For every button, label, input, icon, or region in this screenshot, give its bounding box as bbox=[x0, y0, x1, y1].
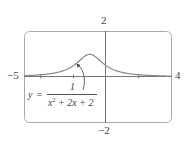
denominator-rest: + 2x + 2 bbox=[55, 97, 93, 108]
equation-equals: = bbox=[36, 89, 43, 100]
annotation-arrow bbox=[78, 65, 84, 90]
fraction-bar bbox=[47, 94, 97, 95]
y-max-label: 2 bbox=[101, 15, 107, 26]
graph-canvas bbox=[0, 0, 190, 142]
equation-denominator: x2 + 2x + 2 bbox=[48, 97, 93, 108]
x-max-label: 4 bbox=[175, 70, 181, 81]
equation-lhs: y bbox=[28, 89, 32, 100]
equation-numerator: 1 bbox=[70, 81, 75, 92]
y-min-label: −2 bbox=[98, 125, 110, 136]
x-min-label: −5 bbox=[7, 70, 19, 81]
function-curve bbox=[25, 54, 172, 76]
